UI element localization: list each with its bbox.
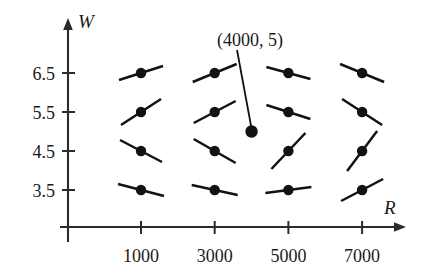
data-point-dot <box>283 107 293 117</box>
slope-field-point <box>121 99 161 125</box>
y-tick-label: 6.5 <box>33 64 56 84</box>
y-tick-label: 4.5 <box>33 142 56 162</box>
data-point-dot <box>136 146 146 156</box>
slope-field-point <box>266 67 310 79</box>
data-point-dot <box>136 185 146 195</box>
data-point-dot <box>283 146 293 156</box>
slope-field-point <box>118 184 164 196</box>
data-point-dot <box>357 185 367 195</box>
annotation-layer: (4000, 5) <box>217 30 283 138</box>
x-tick-label: 7000 <box>344 246 380 266</box>
data-point-dot <box>136 107 146 117</box>
data-point-dot <box>210 107 220 117</box>
slope-field-point <box>119 66 163 80</box>
highlighted-point-label: (4000, 5) <box>217 30 283 51</box>
slope-field-point <box>340 64 384 82</box>
slope-field-point <box>347 131 377 171</box>
slope-field-point <box>342 99 382 125</box>
y-axis-title: W <box>78 11 96 32</box>
y-axis-arrowhead <box>63 18 73 30</box>
y-tick-label: 3.5 <box>33 181 56 201</box>
data-point-dot <box>283 68 293 78</box>
slope-field-point <box>193 64 237 82</box>
x-tick-label: 5000 <box>270 246 306 266</box>
data-point-dot <box>136 68 146 78</box>
plot-canvas: W R 3.54.55.56.5 1000300050007000 (4000,… <box>0 0 425 273</box>
data-point-dot <box>283 185 293 195</box>
data-point-dot <box>210 146 220 156</box>
data-point-dot <box>210 185 220 195</box>
data-point-dot <box>357 146 367 156</box>
annotation-leader-line <box>237 50 252 129</box>
data-point-dot <box>357 68 367 78</box>
x-tick-label: 1000 <box>123 246 159 266</box>
x-axis-arrowhead <box>394 222 406 232</box>
slope-field-point <box>192 185 238 195</box>
slope-field-point <box>265 185 311 195</box>
slope-field-point <box>271 133 305 169</box>
y-tick-label: 5.5 <box>33 103 56 123</box>
highlighted-point-dot <box>245 125 257 137</box>
slope-field-point <box>194 101 236 123</box>
slope-field-point <box>341 179 383 201</box>
slope-field-point <box>194 139 236 163</box>
data-point-dot <box>210 68 220 78</box>
slope-field-point <box>266 105 310 119</box>
slope-field-figure: W R 3.54.55.56.5 1000300050007000 (4000,… <box>0 0 425 273</box>
x-tick-label: 3000 <box>197 246 233 266</box>
x-axis-title: R <box>383 197 396 218</box>
slope-field-point <box>120 140 162 162</box>
data-point-dot <box>357 107 367 117</box>
